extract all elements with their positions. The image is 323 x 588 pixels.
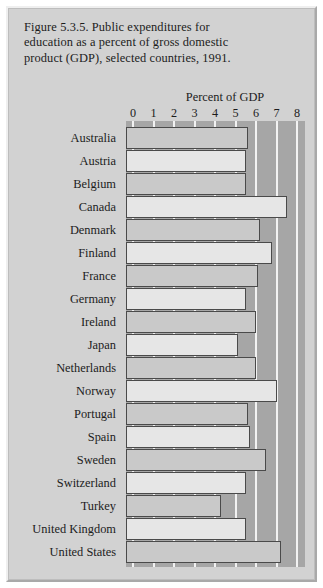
category-label-finland: Finland — [78, 242, 116, 264]
category-label-austria: Austria — [80, 150, 116, 172]
bar-france — [126, 265, 258, 287]
category-label-netherlands: Netherlands — [56, 357, 116, 379]
category-label-denmark: Denmark — [70, 219, 116, 241]
category-label-spain: Spain — [88, 426, 116, 448]
category-label-turkey: Turkey — [81, 495, 116, 517]
bar-australia — [126, 127, 248, 149]
category-label-portugal: Portugal — [74, 403, 116, 425]
x-tick-6: 6 — [249, 106, 263, 121]
bar-united-states — [126, 541, 281, 563]
bar-germany — [126, 288, 246, 310]
category-label-germany: Germany — [70, 288, 116, 310]
x-axis-tick-labels: 012345678 — [8, 106, 319, 120]
bar-united-kingdom — [126, 518, 246, 540]
x-tick-0: 0 — [126, 106, 140, 121]
bar-portugal — [126, 403, 248, 425]
bar-norway — [126, 380, 277, 402]
category-label-japan: Japan — [88, 334, 116, 356]
category-label-switzerland: Switzerland — [57, 472, 116, 494]
x-tick-1: 1 — [147, 106, 161, 121]
bar-austria — [126, 150, 246, 172]
category-label-australia: Australia — [71, 127, 116, 149]
bar-switzerland — [126, 472, 246, 494]
bar-ireland — [126, 311, 256, 333]
bar-denmark — [126, 219, 260, 241]
plot-wrapper: 012345678 AustraliaAustriaBelgiumCanadaD… — [8, 8, 319, 584]
category-label-belgium: Belgium — [73, 173, 116, 195]
bar-japan — [126, 334, 238, 356]
bar-spain — [126, 426, 250, 448]
bar-finland — [126, 242, 272, 264]
category-label-united-kingdom: United Kingdom — [32, 518, 116, 540]
x-tick-2: 2 — [167, 106, 181, 121]
bar-canada — [126, 196, 287, 218]
x-tick-4: 4 — [208, 106, 222, 121]
category-labels: AustraliaAustriaBelgiumCanadaDenmarkFinl… — [8, 121, 126, 567]
category-label-sweden: Sweden — [77, 449, 116, 471]
category-label-ireland: Ireland — [81, 311, 116, 333]
bar-sweden — [126, 449, 266, 471]
bar-series — [126, 121, 305, 567]
category-label-france: France — [82, 265, 116, 287]
x-tick-8: 8 — [290, 106, 304, 121]
bar-turkey — [126, 495, 221, 517]
x-tick-3: 3 — [188, 106, 202, 121]
category-label-canada: Canada — [79, 196, 116, 218]
category-label-united-states: United States — [50, 541, 116, 563]
figure-frame: Figure 5.3.5. Public expenditures for ed… — [6, 6, 317, 582]
category-label-norway: Norway — [76, 380, 116, 402]
bar-netherlands — [126, 357, 256, 379]
x-tick-5: 5 — [229, 106, 243, 121]
bar-belgium — [126, 173, 246, 195]
x-tick-7: 7 — [270, 106, 284, 121]
